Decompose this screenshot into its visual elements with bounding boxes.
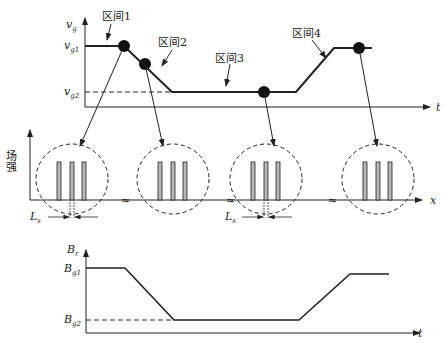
interval-1-label: 区间1 [102, 10, 131, 23]
mid-x-label: x [430, 194, 437, 207]
break-symbol: ≈ [121, 194, 130, 207]
interval-3-label: 区间3 [215, 52, 244, 65]
speed-chart: 区间1 区间2 区间3 区间4 vg vg1 vg2 t [64, 10, 441, 114]
break-symbol: ≈ [226, 194, 235, 207]
spacing-label: Ls [29, 210, 41, 225]
spacing-label: Ls [224, 210, 236, 225]
bottom-x-label: t [418, 327, 423, 340]
bottom-y-label: Br [66, 243, 79, 258]
vg1-label: vg1 [64, 39, 79, 54]
vg2-label: vg2 [64, 85, 80, 100]
bg1-label: Bg1 [63, 262, 81, 277]
field-strength-chart: ≈ ≈ ≈ 场强 x Ls Ls [4, 130, 438, 225]
diagram-canvas: 区间1 区间2 区间3 区间4 vg vg1 vg2 t [0, 0, 446, 351]
top-y-label: vg [66, 18, 77, 33]
bg2-label: Bg2 [63, 313, 82, 328]
interval-4-label: 区间4 [292, 27, 321, 40]
field-strength-label: 场强 [4, 149, 18, 173]
remanence-profile-line [86, 268, 389, 320]
break-symbol: ≈ [328, 194, 337, 207]
remanence-chart: Br Bg1 Bg2 t [63, 243, 423, 340]
interval-2-label: 区间2 [158, 36, 187, 49]
top-x-label: t [436, 101, 441, 114]
